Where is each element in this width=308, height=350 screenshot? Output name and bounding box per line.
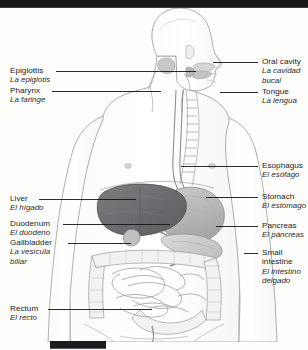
label-gallbladder-en: Gallbladder <box>10 238 52 247</box>
label-epiglottis-es: La epiglotis <box>10 75 50 84</box>
label-pharynx: Pharynx La faringe <box>10 86 45 105</box>
label-epiglottis-en: Epiglottis <box>10 66 50 75</box>
label-pancreas-es: El páncreas <box>262 230 304 239</box>
label-pharynx-es: La faringe <box>10 95 45 104</box>
label-oral-cavity-es-line2: bucal <box>262 76 301 85</box>
label-tongue-es: La lengua <box>262 96 297 105</box>
label-duodenum-es: El duodeno <box>10 228 50 237</box>
label-liver: Liver El hígado <box>10 194 44 213</box>
nipple-left <box>125 164 132 169</box>
label-gallbladder-es-line1: La vesícula <box>10 247 52 256</box>
label-esophagus-en: Esophagus <box>262 161 303 170</box>
label-pancreas-en: Pancreas <box>262 221 304 230</box>
nipple-right <box>209 164 216 169</box>
label-gallbladder-es-line2: biliar <box>10 257 52 266</box>
label-stomach-es: El estómago <box>262 201 306 210</box>
label-stomach-en: Stomach <box>262 192 306 201</box>
label-oral-cavity-es-line1: La cavidad <box>262 66 301 75</box>
label-pharynx-en: Pharynx <box>10 86 45 95</box>
label-small-intestine: Small intestine El intestino delgado <box>262 248 301 286</box>
label-stomach: Stomach El estómago <box>262 192 306 211</box>
label-small-intestine-es-line2: delgado <box>262 276 301 285</box>
label-oral-cavity-en: Oral cavity <box>262 57 301 66</box>
label-rectum-es: El recto <box>10 313 38 322</box>
label-small-intestine-es-line1: El intestino <box>262 267 301 276</box>
label-pancreas: Pancreas El páncreas <box>262 221 304 240</box>
label-tongue: Tongue La lengua <box>262 87 297 106</box>
label-tongue-en: Tongue <box>262 87 297 96</box>
label-rectum: Rectum El recto <box>10 304 38 323</box>
label-liver-es: El hígado <box>10 203 44 212</box>
label-epiglottis: Epiglottis La epiglotis <box>10 66 50 85</box>
bottom-crop-bar <box>50 341 106 349</box>
label-gallbladder: Gallbladder La vesícula biliar <box>10 238 52 266</box>
label-esophagus-es: El esófago <box>262 170 303 179</box>
label-liver-en: Liver <box>10 194 44 203</box>
label-small-intestine-en-line1: Small <box>262 248 301 257</box>
top-crop-bar <box>0 0 308 8</box>
label-small-intestine-en-line2: intestine <box>262 257 301 266</box>
label-esophagus: Esophagus El esófago <box>262 161 303 180</box>
label-rectum-en: Rectum <box>10 304 38 313</box>
label-duodenum: Duodenum El duodeno <box>10 219 50 238</box>
label-duodenum-en: Duodenum <box>10 219 50 228</box>
label-oral-cavity: Oral cavity La cavidad bucal <box>262 57 301 85</box>
